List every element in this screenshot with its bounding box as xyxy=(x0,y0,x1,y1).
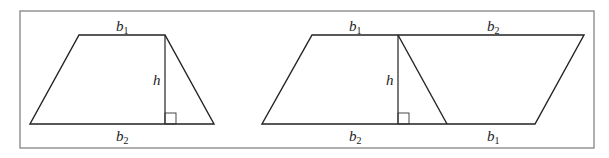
label-b2-top: b2 xyxy=(487,18,500,36)
parallelogram-figure: b1 b2 b2 b1 h xyxy=(262,18,584,146)
label-b2-bottom: b2 xyxy=(349,128,362,146)
label-b2: b2 xyxy=(116,128,129,146)
label-b1-bottom: b1 xyxy=(487,128,500,146)
trapezoid-shape xyxy=(30,35,214,124)
label-b1: b1 xyxy=(116,18,129,36)
trapezoid-dividing-line xyxy=(398,35,447,124)
trapezoid-area-diagram: b1 b2 h b1 b2 b2 b1 h xyxy=(0,0,609,158)
label-h: h xyxy=(153,72,161,88)
right-angle-marker xyxy=(165,113,176,124)
label-b1-top: b1 xyxy=(349,18,362,36)
figure-frame xyxy=(20,11,594,148)
trapezoid-figure: b1 b2 h xyxy=(30,18,214,146)
label-h: h xyxy=(386,72,394,88)
right-angle-marker xyxy=(398,113,409,124)
